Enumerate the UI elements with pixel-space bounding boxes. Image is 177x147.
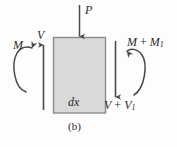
moment-right-base: M [127, 35, 137, 49]
shear-right-operator: + [111, 98, 124, 112]
moment-left-label: M [13, 39, 23, 51]
moment-left-arrow [14, 47, 32, 92]
moment-right-label: M + M1 [127, 36, 164, 49]
shear-right-subscript: 1 [131, 103, 135, 112]
axial-load-label: P [85, 4, 92, 16]
figure-caption: (b) [68, 121, 81, 132]
moment-right-operator: + [137, 35, 150, 49]
moment-right-subscript: 1 [160, 40, 164, 49]
element-length-label: dx [68, 96, 79, 108]
diagram-canvas [0, 0, 177, 147]
moment-right-increment: M [150, 35, 160, 49]
shear-left-label: V [37, 29, 44, 41]
moment-right-arrow [127, 49, 145, 95]
element-block [54, 38, 106, 114]
free-body-diagram-figure: P V M M + M1 V + V1 dx (b) [0, 0, 177, 147]
shear-right-label: V + V1 [104, 99, 135, 112]
